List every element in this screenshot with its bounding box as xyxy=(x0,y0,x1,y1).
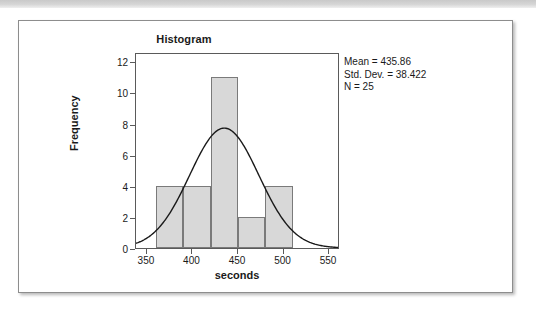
y-axis-title: Frequency xyxy=(68,95,80,151)
normal-curve-overlay xyxy=(136,54,338,248)
plot-inner xyxy=(136,54,338,248)
plot-area xyxy=(135,53,339,249)
stat-mean: Mean = 435.86 xyxy=(344,56,426,69)
y-axis-tick-label: 8 xyxy=(122,119,128,130)
x-axis-tick-label: 350 xyxy=(138,255,155,266)
y-axis-tick-label: 12 xyxy=(117,57,128,68)
y-axis: 024681012 xyxy=(115,53,135,249)
y-axis-tick-label: 10 xyxy=(117,88,128,99)
stat-n: N = 25 xyxy=(344,81,426,94)
x-axis-tick-label: 550 xyxy=(320,255,337,266)
x-axis: 350400450500550 xyxy=(135,249,339,271)
stat-std-dev: Std. Dev. = 38.422 xyxy=(344,69,426,82)
x-axis-tick xyxy=(283,249,284,254)
statistics-annotation: Mean = 435.86 Std. Dev. = 38.422 N = 25 xyxy=(344,56,426,94)
x-axis-tick xyxy=(328,249,329,254)
page-top-strip xyxy=(0,0,536,8)
x-axis-tick xyxy=(146,249,147,254)
y-axis-tick-label: 2 xyxy=(122,212,128,223)
x-axis-title: seconds xyxy=(135,269,339,281)
x-axis-tick-label: 500 xyxy=(274,255,291,266)
chart-title: Histogram xyxy=(19,33,349,45)
x-axis-tick-label: 450 xyxy=(229,255,246,266)
y-axis-tick-label: 0 xyxy=(122,244,128,255)
x-axis-tick-label: 400 xyxy=(183,255,200,266)
y-axis-tick-label: 4 xyxy=(122,181,128,192)
x-axis-tick xyxy=(237,249,238,254)
x-axis-tick xyxy=(191,249,192,254)
y-axis-tick-label: 6 xyxy=(122,150,128,161)
figure-card: Histogram Frequency 024681012 3504004505… xyxy=(18,20,513,293)
